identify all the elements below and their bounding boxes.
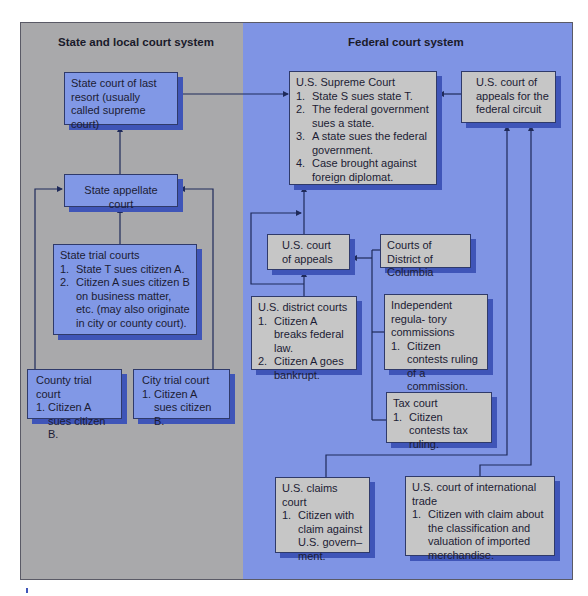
federal-circuit-court-box: U.S. court of appeals for the federal ci… (461, 71, 556, 123)
city-trial-court-box: City trial court 1.Citizen A sues citize… (133, 369, 230, 419)
us-international-trade-court-label: U.S. court of international trade (412, 481, 548, 508)
regulatory-commissions-label: Independent regula- tory commissions (391, 299, 481, 340)
list-item: 2.Citizen A sues citizen B on business m… (60, 276, 190, 330)
list-item: 1.State T sues citizen A. (60, 263, 190, 277)
city-trial-court-label: City trial court (142, 374, 223, 388)
list-item: 1.Citizen A breaks federal law. (258, 315, 350, 356)
tax-court-box: Tax court 1.Citizen contests tax ruling. (386, 392, 492, 443)
federal-panel-title: Federal court system (348, 36, 464, 48)
list-item: 1.Citizen contests tax ruling. (393, 411, 485, 452)
us-supreme-court-box: U.S. Supreme Court 1.State S sues state … (289, 71, 437, 185)
regulatory-commissions-box: Independent regula- tory commissions 1.C… (384, 294, 488, 370)
list-item: 1.Citizen with claim against U.S. govern… (282, 509, 363, 563)
state-appellate-court-box: State appellate court (64, 174, 178, 207)
us-supreme-court-label: U.S. Supreme Court (296, 76, 430, 90)
us-claims-court-label: U.S. claims court (282, 482, 363, 509)
list-item: 2.The federal government sues a state. (296, 103, 430, 130)
list-item: 2.Citizen A goes bankrupt. (258, 355, 350, 382)
state-trial-courts-box: State trial courts 1.State T sues citize… (53, 244, 197, 335)
us-court-of-appeals-box: U.S. court of appeals (267, 234, 350, 270)
us-court-of-appeals-label: U.S. court of appeals (282, 239, 343, 266)
page-mark (26, 588, 28, 593)
state-appellate-court-label: State appellate court (71, 184, 171, 211)
state-supreme-court-label: State court of last resort (usually call… (71, 77, 171, 131)
list-item: 1.Citizen A sues citizen B. (36, 401, 115, 442)
tax-court-label: Tax court (393, 397, 485, 411)
state-panel-title: State and local court system (58, 36, 214, 48)
federal-circuit-court-label: U.S. court of appeals for the federal ci… (476, 76, 549, 117)
us-claims-court-box: U.S. claims court 1.Citizen with claim a… (275, 477, 370, 553)
us-international-trade-court-box: U.S. court of international trade 1.Citi… (405, 476, 555, 556)
us-district-courts-label: U.S. district courts (258, 301, 350, 315)
dc-courts-label: Courts of District of Columbia (387, 239, 464, 280)
us-district-courts-box: U.S. district courts 1.Citizen A breaks … (251, 296, 357, 370)
state-supreme-court-box: State court of last resort (usually call… (64, 72, 178, 125)
list-item: 1.State S sues state T. (296, 90, 430, 104)
county-trial-court-box: County trial court 1.Citizen A sues citi… (27, 369, 122, 419)
state-trial-courts-label: State trial courts (60, 249, 190, 263)
list-item: 1.Citizen contests ruling of a commissio… (391, 340, 481, 394)
list-item: 3.A state sues the federal government. (296, 130, 430, 157)
dc-courts-box: Courts of District of Columbia (380, 234, 471, 268)
list-item: 1.Citizen A sues citizen B. (142, 388, 223, 429)
list-item: 4.Case brought against foreign diplomat. (296, 157, 430, 184)
list-item: 1.Citizen with claim about the classific… (412, 508, 548, 562)
county-trial-court-label: County trial court (36, 374, 115, 401)
